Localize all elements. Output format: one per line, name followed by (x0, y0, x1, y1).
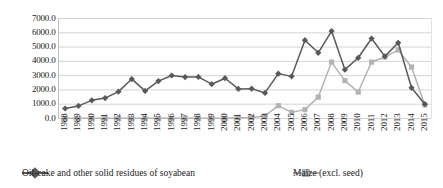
y-tick-label: 1000.0 (32, 98, 56, 108)
data-point-maize (302, 107, 307, 112)
x-tick-label: 1993 (126, 113, 136, 131)
x-tick-label: 2008 (326, 113, 336, 131)
data-point-maize (369, 59, 374, 64)
data-point-maize (342, 78, 347, 83)
x-tick-label: 2001 (232, 113, 242, 131)
data-point-soyabean (89, 97, 95, 103)
chart-gridlines (59, 19, 432, 119)
x-tick-label: 2005 (286, 113, 296, 131)
data-point-soyabean (195, 74, 201, 80)
x-tick-label: 2002 (246, 113, 256, 131)
data-point-soyabean (209, 81, 215, 87)
y-tick-label: 5000.0 (32, 41, 56, 51)
data-point-soyabean (62, 105, 68, 111)
y-tick-label: 4000.0 (32, 55, 56, 65)
x-tick-label: 2007 (312, 113, 322, 131)
y-tick-label: 6000.0 (32, 27, 56, 37)
data-point-maize (409, 64, 414, 69)
x-tick-label: 2013 (392, 113, 402, 131)
data-point-soyabean (249, 86, 255, 92)
chart-container: 0.01000.02000.03000.04000.05000.06000.07… (0, 0, 443, 188)
data-point-maize (356, 89, 361, 94)
x-tick-label: 1994 (139, 113, 149, 131)
x-tick-label: 2010 (352, 113, 362, 131)
data-point-soyabean (289, 73, 295, 79)
data-point-soyabean (75, 103, 81, 109)
x-tick-label: 1996 (166, 113, 176, 131)
y-tick-label: 2000.0 (32, 84, 56, 94)
x-tick-label: 2009 (339, 113, 349, 131)
data-point-maize (316, 94, 321, 99)
data-point-soyabean (102, 95, 108, 101)
x-tick-label: 1989 (72, 113, 82, 131)
legend-label-maize: Maize (excl. seed) (293, 168, 363, 178)
chart-legend: Oil-cake and other solid residues of soy… (0, 160, 443, 188)
x-tick-label: 2011 (366, 113, 376, 130)
legend-label-soyabean: Oil-cake and other solid residues of soy… (22, 168, 195, 178)
x-tick-label: 1995 (152, 113, 162, 131)
y-tick-label: 7000.0 (32, 13, 56, 23)
x-tick-label: 2000 (219, 113, 229, 131)
x-tick-label: 1992 (112, 113, 122, 131)
data-point-maize (276, 103, 281, 108)
y-tick-label: 0.0 (45, 113, 56, 123)
x-tick-label: 2004 (272, 113, 282, 131)
series-soyabean (62, 28, 428, 112)
chart-series-layer (62, 28, 428, 121)
x-tick-label: 1990 (86, 113, 96, 131)
x-tick-label: 2014 (406, 113, 416, 131)
x-tick-label: 2012 (379, 113, 389, 131)
x-tick-label: 1997 (179, 113, 189, 131)
x-tick-label: 2006 (299, 113, 309, 131)
x-tick-label: 2003 (259, 113, 269, 131)
data-point-soyabean (169, 72, 175, 78)
x-tick-label: 2015 (419, 113, 429, 131)
legend-entry-soyabean[interactable]: Oil-cake and other solid residues of soy… (22, 166, 53, 180)
x-tick-label: 1998 (192, 113, 202, 131)
x-tick-label: 1991 (99, 113, 109, 131)
data-point-maize (329, 59, 334, 64)
x-tick-label: 1999 (206, 113, 216, 131)
data-point-soyabean (182, 74, 188, 80)
series-line-soyabean (65, 31, 425, 108)
series-maize (63, 47, 428, 121)
y-tick-label: 3000.0 (32, 70, 56, 80)
chart-plot-border (59, 19, 432, 119)
x-tick-label: 1988 (59, 113, 69, 131)
legend-entry-maize[interactable]: Maize (excl. seed) (293, 166, 324, 180)
